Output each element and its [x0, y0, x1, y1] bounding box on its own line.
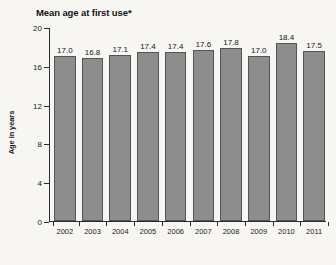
- x-tick-mark: [217, 222, 218, 226]
- y-axis-label: Age in years: [7, 98, 16, 168]
- y-tick-label: 20: [33, 24, 42, 33]
- bar-2004[interactable]: 17.1: [109, 55, 131, 221]
- bar-value-label: 17.6: [196, 40, 212, 49]
- y-tick-mark: [44, 67, 49, 68]
- x-tick-mark: [245, 222, 246, 226]
- bar-value-label: 17.1: [112, 45, 128, 54]
- x-tick-mark: [300, 222, 301, 226]
- bar-value-label: 18.4: [279, 33, 295, 42]
- x-tick-label-2011: 2011: [306, 227, 322, 236]
- x-tick-label-2002: 2002: [57, 227, 74, 236]
- bar-2011[interactable]: 17.5: [303, 51, 325, 221]
- x-tick-label-2008: 2008: [223, 227, 240, 236]
- x-tick-mark: [106, 222, 107, 226]
- y-tick-label: 12: [33, 101, 42, 110]
- bar-value-label: 16.8: [85, 48, 101, 57]
- x-tick-label-2006: 2006: [167, 227, 184, 236]
- x-tick-label-2007: 2007: [195, 227, 212, 236]
- x-tick-mark: [53, 222, 54, 226]
- y-tick-label: 16: [33, 62, 42, 71]
- x-tick-label-2005: 2005: [140, 227, 157, 236]
- y-axis-line: [49, 28, 50, 222]
- x-tick-label-2004: 2004: [112, 227, 129, 236]
- x-tick-mark: [162, 222, 163, 226]
- x-tick-mark: [273, 222, 274, 226]
- bar-2010[interactable]: 18.4: [276, 43, 298, 221]
- bar-2008[interactable]: 17.8: [220, 48, 242, 221]
- x-tick-mark: [328, 222, 329, 226]
- plot-area: 048121620 17.016.817.117.417.417.617.817…: [49, 28, 326, 222]
- x-tick-mark: [190, 222, 191, 226]
- y-tick-mark: [44, 144, 49, 145]
- bar-value-label: 17.0: [57, 46, 73, 55]
- chart-title: Mean age at first use*: [36, 7, 131, 18]
- bar-2005[interactable]: 17.4: [137, 52, 159, 221]
- y-tick-mark: [44, 106, 49, 107]
- y-tick-mark: [44, 222, 49, 223]
- bar-value-label: 17.5: [306, 41, 322, 50]
- bar-value-label: 17.0: [251, 46, 267, 55]
- y-tick-label: 4: [38, 179, 42, 188]
- x-axis-line: [49, 221, 326, 222]
- x-tick-label-2010: 2010: [278, 227, 295, 236]
- y-tick-mark: [44, 28, 49, 29]
- bar-value-label: 17.4: [140, 42, 156, 51]
- bar-chart-figure: Mean age at first use* Age in years 0481…: [0, 0, 336, 265]
- bar-2002[interactable]: 17.0: [54, 56, 76, 221]
- bar-value-label: 17.4: [168, 42, 184, 51]
- y-tick-label: 0: [38, 218, 42, 227]
- bar-2009[interactable]: 17.0: [248, 56, 270, 221]
- y-tick-mark: [44, 183, 49, 184]
- x-tick-mark: [79, 222, 80, 226]
- bar-2007[interactable]: 17.6: [193, 50, 215, 221]
- y-tick-label: 8: [38, 140, 42, 149]
- bar-2003[interactable]: 16.8: [82, 58, 104, 221]
- bar-2006[interactable]: 17.4: [165, 52, 187, 221]
- x-tick-mark: [134, 222, 135, 226]
- x-tick-label-2003: 2003: [84, 227, 101, 236]
- x-tick-label-2009: 2009: [250, 227, 267, 236]
- bar-value-label: 17.8: [223, 38, 239, 47]
